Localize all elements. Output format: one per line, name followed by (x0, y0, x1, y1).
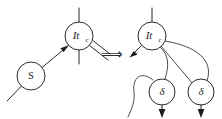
left-side-group: It c S (7, 8, 110, 101)
right-side-group: δ δ It c (128, 8, 214, 118)
itc-right-to-delta-1-edge (160, 47, 168, 79)
node-delta-1-label: δ (159, 85, 165, 97)
node-s-left-label: S (28, 70, 34, 81)
rewrite-arrow-glyph: ⟹ (101, 45, 123, 63)
itc-right-out-arrowhead (130, 51, 138, 58)
delta-2-out-arrowhead (198, 109, 205, 118)
itc-right-to-delta-2-edge (164, 41, 209, 81)
rewrite-rule-canvas: It c S ⟹ δ (0, 0, 222, 119)
delta-1-out-arrowhead (159, 109, 166, 118)
rewrite-rule-figure: It c S ⟹ δ (0, 0, 222, 119)
node-itc-right-label: It (145, 29, 154, 41)
cross-wire-to-delta-2 (161, 46, 193, 84)
node-delta-2-label: δ (198, 85, 204, 97)
node-itc-left-label: It (72, 29, 81, 41)
s-left-tail-wire (7, 86, 22, 101)
